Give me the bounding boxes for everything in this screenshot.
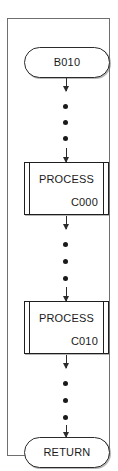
flowchart-page: B010 PROCESS C000 PROCESS C010 xyxy=(0,0,118,471)
connector-arrow-into-c000 xyxy=(66,148,67,162)
process-c000-code: C000 xyxy=(71,197,98,208)
connector-dot xyxy=(63,136,68,141)
predefined-process-c000[interactable]: PROCESS C000 xyxy=(24,162,109,215)
diagram-frame: B010 PROCESS C000 PROCESS C010 xyxy=(7,18,110,456)
predefined-process-c010[interactable]: PROCESS C010 xyxy=(24,301,109,354)
connector-dot xyxy=(63,415,68,420)
connector-dot xyxy=(63,120,68,125)
terminator-return-label: RETURN xyxy=(43,447,90,458)
terminator-start[interactable]: B010 xyxy=(24,47,110,78)
connector-dot xyxy=(63,259,68,264)
process-c010-title: PROCESS xyxy=(25,313,108,324)
connector-arrow-into-c010 xyxy=(66,287,67,301)
connector-arrow-c010-to-dots xyxy=(66,355,67,368)
process-side-bar-left-icon xyxy=(24,302,30,353)
connector-dot xyxy=(63,242,68,247)
connector-dot xyxy=(63,381,68,386)
process-c000-title: PROCESS xyxy=(25,174,108,185)
connector-arrow-start-to-c000 xyxy=(66,78,67,91)
connector-dot xyxy=(63,398,68,403)
connector-dot xyxy=(63,104,68,109)
process-side-bar-left-icon xyxy=(24,163,30,214)
connector-arrow-into-return xyxy=(66,425,67,437)
connector-arrow-c000-to-dots xyxy=(66,216,67,229)
process-c010-code: C010 xyxy=(71,336,98,347)
connector-dot xyxy=(63,276,68,281)
terminator-start-label: B010 xyxy=(54,57,81,68)
terminator-return[interactable]: RETURN xyxy=(24,437,110,468)
process-side-bar-right-icon xyxy=(103,163,109,214)
process-side-bar-right-icon xyxy=(103,302,109,353)
